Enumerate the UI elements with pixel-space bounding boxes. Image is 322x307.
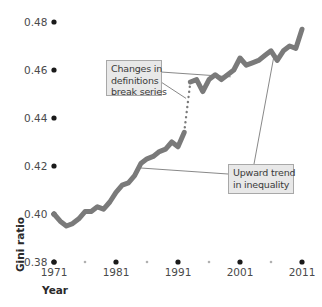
gini-series-line	[190, 29, 302, 91]
x-tick-dot	[175, 259, 180, 264]
plot-area: 0.380.400.420.440.460.48 197119811991200…	[0, 0, 322, 307]
gini-series-line	[54, 132, 184, 226]
annotation-line: break series	[111, 86, 157, 98]
x-tick-label: 1981	[103, 266, 130, 278]
y-tick-dot	[51, 19, 56, 24]
gini-ratio-chart: 0.380.400.420.440.460.48 197119811991200…	[0, 0, 322, 307]
series-break-dotted-line	[184, 82, 190, 132]
annotation-upward-trend: Upward trend in inequality	[228, 164, 294, 194]
y-tick-dot	[51, 67, 56, 72]
x-tick-dot	[113, 259, 118, 264]
annotation-definitions-break: Changes in definitions break series	[106, 60, 162, 96]
y-axis-title: Gini ratio	[14, 217, 26, 272]
x-tick-label: 2011	[289, 266, 316, 278]
x-axis: 19711981199120012011	[41, 259, 316, 278]
x-tick-dot	[299, 259, 304, 264]
y-tick-label: 0.48	[24, 16, 47, 28]
x-axis-title: Year	[41, 284, 69, 296]
series-layer	[54, 29, 302, 226]
annotation-connector-line	[254, 55, 274, 164]
y-tick-label: 0.44	[24, 112, 48, 124]
x-tick-label: 2001	[227, 266, 254, 278]
x-tick-label: 1971	[41, 266, 68, 278]
x-minor-tick-dot	[146, 261, 149, 264]
x-tick-dot	[51, 259, 56, 264]
annotation-connector-line	[141, 168, 228, 174]
x-minor-tick-dot	[84, 261, 87, 264]
y-tick-dot	[51, 115, 56, 120]
x-minor-tick-dot	[208, 261, 211, 264]
annotation-line: Upward trend	[233, 167, 289, 179]
x-tick-label: 1991	[165, 266, 192, 278]
x-minor-tick-dot	[270, 261, 273, 264]
y-tick-dot	[51, 163, 56, 168]
y-tick-label: 0.42	[24, 160, 47, 172]
y-tick-label: 0.46	[24, 64, 48, 76]
annotation-line: Changes in	[111, 63, 157, 75]
x-tick-dot	[237, 259, 242, 264]
annotation-line: in inequality	[233, 179, 289, 191]
annotation-line: definitions	[111, 75, 157, 87]
y-tick-label: 0.40	[24, 208, 47, 220]
y-axis: 0.380.400.420.440.460.48	[24, 16, 57, 268]
